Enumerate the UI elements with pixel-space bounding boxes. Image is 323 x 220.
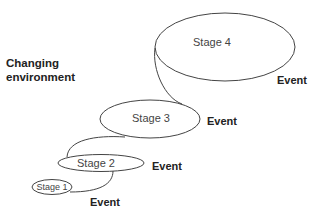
stage-2-label: Stage 2 xyxy=(77,157,115,169)
stage-2-node: Stage 2 xyxy=(58,155,144,172)
event-label-stage1: Event xyxy=(90,196,120,208)
event-label-stage2: Event xyxy=(152,160,182,172)
stage-3-label: Stage 3 xyxy=(132,112,170,124)
stage-spiral-diagram: Stage 4 Stage 3 Stage 2 Stage 1 Event Ev… xyxy=(0,0,323,220)
connector-stage2-to-stage3 xyxy=(67,137,125,157)
stage-4-label: Stage 4 xyxy=(193,36,231,48)
stage-3-node: Stage 3 xyxy=(100,100,200,138)
event-label-stage3: Event xyxy=(207,115,237,127)
stage-4-node: Stage 4 xyxy=(155,13,295,81)
connector-stage1-to-stage2 xyxy=(70,171,113,192)
event-label-stage4: Event xyxy=(277,74,307,86)
stage-1-node: Stage 1 xyxy=(32,180,72,195)
connector-stage3-to-stage4 xyxy=(155,48,182,104)
stage-1-label: Stage 1 xyxy=(36,182,67,192)
